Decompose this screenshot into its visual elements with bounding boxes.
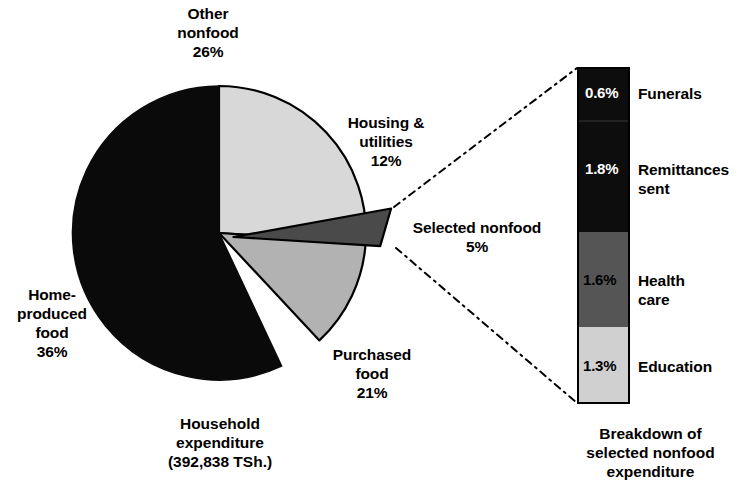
bar-percent-education: 1.3% [583, 357, 631, 374]
breakdown-caption: Breakdown of selected nonfood expenditur… [556, 424, 745, 481]
breakdown-bar [578, 68, 629, 403]
bar-label-health-care: Health care [638, 271, 743, 309]
bar-percent-funerals: 0.6% [585, 84, 633, 101]
expenditure-figure: Other nonfood 26% Housing & utilities 12… [0, 0, 745, 489]
bar-label-education: Education [638, 357, 743, 376]
bar-label-remittances: Remittances sent [638, 160, 743, 198]
callout-connectors [394, 68, 577, 403]
bar-percent-remittances: 1.8% [585, 160, 633, 177]
bar-percent-health-care: 1.6% [583, 271, 631, 288]
bar-label-funerals: Funerals [638, 84, 743, 103]
pie-chart [73, 86, 392, 380]
pie-caption: Household expenditure (392,838 TSh.) [135, 414, 305, 471]
connector-line-top [394, 68, 577, 207]
chart-canvas [0, 0, 745, 489]
connector-line-bottom [396, 248, 577, 403]
